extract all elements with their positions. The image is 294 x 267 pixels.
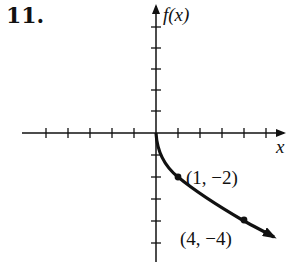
y-axis-label: f(x): [163, 4, 189, 26]
point-2-marker: [241, 217, 248, 224]
point-1-marker: [175, 174, 182, 181]
point-2-label: (4, −4): [180, 228, 232, 250]
x-axis: [22, 128, 284, 138]
graph: f(x) x (1, −2) (4, −4): [0, 0, 294, 267]
point-1-label: (1, −2): [186, 167, 238, 189]
x-axis-label: x: [275, 136, 285, 157]
